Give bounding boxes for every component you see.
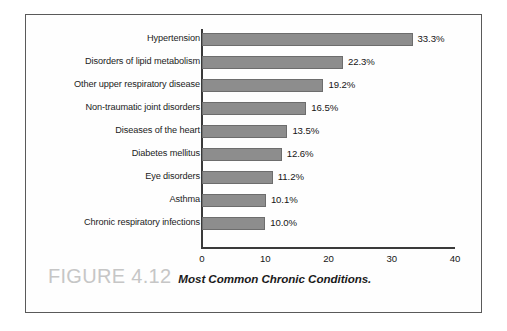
bar-row: Disorders of lipid metabolism22.3% (26, 52, 483, 75)
bar (202, 194, 266, 207)
figure-caption-text: Most Common Chronic Conditions. (178, 272, 371, 285)
x-tick-label: 0 (199, 253, 204, 264)
category-label: Non-traumatic joint disorders (85, 102, 200, 112)
bar (202, 125, 287, 138)
category-label: Other upper respiratory disease (74, 79, 200, 89)
figure-caption: FIGURE 4.12Most Common Chronic Condition… (48, 265, 468, 288)
bar-value-label: 16.5% (311, 102, 338, 113)
bar-value-label: 33.3% (418, 33, 445, 44)
bar (202, 171, 273, 184)
bar-row: Diseases of the heart13.5% (26, 121, 483, 144)
bar (202, 102, 306, 115)
bar (202, 148, 282, 161)
bar-value-label: 19.2% (328, 79, 355, 90)
bar (202, 56, 343, 69)
bar (202, 217, 265, 230)
bar (202, 79, 323, 92)
bar-row: Asthma10.1% (26, 190, 483, 213)
category-label: Chronic respiratory infections (84, 217, 200, 227)
figure-number-label: FIGURE 4.12 (48, 265, 171, 287)
x-tick-label: 40 (450, 253, 461, 264)
bar-value-label: 10.1% (271, 194, 298, 205)
bar-row: Other upper respiratory disease19.2% (26, 75, 483, 98)
category-label: Eye disorders (145, 171, 200, 181)
bar-row: Chronic respiratory infections10.0% (26, 213, 483, 236)
bar-row: Eye disorders11.2% (26, 167, 483, 190)
x-tick-label: 20 (323, 253, 334, 264)
category-label: Hypertension (147, 33, 200, 43)
bar-value-label: 13.5% (292, 125, 319, 136)
x-tick-label: 30 (386, 253, 397, 264)
bar-value-label: 11.2% (278, 171, 304, 182)
x-tick-label: 10 (260, 253, 271, 264)
bar-row: Hypertension33.3% (26, 29, 483, 52)
category-label: Diseases of the heart (115, 125, 200, 135)
figure-frame: Hypertension33.3%Disorders of lipid meta… (25, 14, 482, 313)
chart-plot-area: Hypertension33.3%Disorders of lipid meta… (26, 15, 483, 260)
bar-value-label: 10.0% (270, 217, 297, 228)
category-label: Diabetes mellitus (132, 148, 200, 158)
bar (202, 33, 413, 46)
bar-value-label: 22.3% (348, 56, 375, 67)
category-label: Asthma (169, 194, 200, 204)
bar-row: Non-traumatic joint disorders16.5% (26, 98, 483, 121)
x-axis-line (201, 247, 455, 249)
bar-value-label: 12.6% (287, 148, 314, 159)
bar-row: Diabetes mellitus12.6% (26, 144, 483, 167)
category-label: Disorders of lipid metabolism (85, 56, 200, 66)
